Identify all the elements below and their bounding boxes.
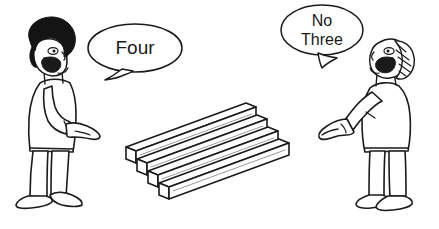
right-bubble-text-line2: Three <box>301 31 343 48</box>
left-person-leg-front <box>51 151 69 197</box>
left-person-leg-back <box>30 151 48 197</box>
cartoon-canvas: Four <box>0 0 439 229</box>
left-person-pupil <box>53 50 56 53</box>
right-bubble-text-line1: No <box>312 12 333 29</box>
right-person-mouth <box>376 57 396 73</box>
right-person-pupil <box>387 50 390 53</box>
left-bubble-text: Four <box>115 37 155 58</box>
right-person-leg-front <box>389 151 406 196</box>
right-person-leg-back <box>369 151 385 197</box>
cartoon-illustration: Four <box>0 0 439 229</box>
